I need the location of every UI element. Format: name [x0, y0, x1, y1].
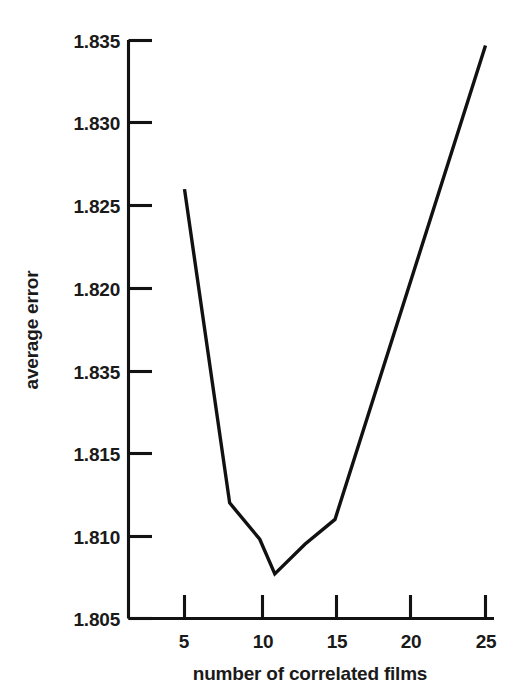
y-tick-label-5: 1.815 — [73, 444, 120, 465]
x-tick-label-3: 20 — [401, 631, 422, 652]
y-tick-label-1: 1.830 — [73, 113, 120, 134]
line-chart: 1.835 1.830 1.825 1.820 1.835 1.815 1.81… — [0, 0, 510, 695]
x-tick-marks — [185, 595, 486, 619]
y-tick-label-4: 1.835 — [73, 362, 120, 383]
y-tick-label-3: 1.820 — [73, 279, 120, 300]
y-axis-title: average error — [21, 270, 42, 390]
x-tick-label-0: 5 — [179, 631, 190, 652]
y-tick-label-6: 1.810 — [73, 527, 120, 548]
x-tick-label-4: 25 — [476, 631, 497, 652]
chart-figure: 1.835 1.830 1.825 1.820 1.835 1.815 1.81… — [0, 0, 510, 695]
x-tick-label-1: 10 — [253, 631, 274, 652]
y-tick-label-0: 1.835 — [73, 31, 120, 52]
data-series-line — [185, 45, 486, 573]
y-tick-marks — [129, 41, 153, 619]
x-axis-title: number of correlated films — [193, 663, 427, 684]
y-tick-label-2: 1.825 — [73, 196, 120, 217]
y-tick-label-7: 1.805 — [73, 609, 120, 630]
x-tick-label-2: 15 — [327, 631, 348, 652]
